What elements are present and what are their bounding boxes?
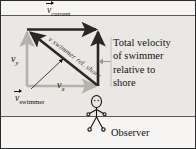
label-subscript-current: current xyxy=(51,10,70,17)
vector-bar-current: v xyxy=(47,5,51,15)
callout-line-2: of swimmer xyxy=(113,49,193,62)
label-v-swimmer: vswimmer xyxy=(15,93,45,105)
label-v-y: vy xyxy=(11,54,19,68)
velocity-diagram-figure: vcurrent vswimmer vy vx v swimmer rel. s… xyxy=(0,0,196,149)
label-observer: Observer xyxy=(111,127,149,138)
callout-line-1: Total velocity xyxy=(113,36,193,49)
callout-line-3: relative to xyxy=(113,63,193,76)
callout-total-velocity-text: Total velocity of swimmer relative to sh… xyxy=(113,36,193,90)
callout-pointer xyxy=(99,37,112,87)
vector-arrow-tip-icon xyxy=(51,1,54,5)
vector-swimmer-diagonal xyxy=(31,33,98,86)
label-subscript-vy: y xyxy=(15,59,18,67)
label-subscript-vx: x xyxy=(61,85,64,93)
stick-figure-observer xyxy=(87,96,106,132)
label-subscript-swimmer: swimmer xyxy=(19,98,44,105)
label-v-current: vcurrent xyxy=(47,5,70,17)
label-v-x: vx xyxy=(57,80,65,94)
callout-line-4: shore xyxy=(113,76,193,89)
vector-arrow-tip-icon xyxy=(19,89,22,93)
vector-bar-swimmer: v xyxy=(15,93,19,103)
